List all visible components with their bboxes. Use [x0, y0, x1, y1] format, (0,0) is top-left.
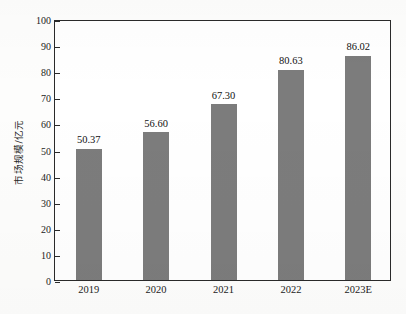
y-tick-mark: [55, 256, 60, 257]
y-tick-mark: [55, 73, 60, 74]
y-tick-mark: [55, 125, 60, 126]
y-tick-mark: [55, 47, 60, 48]
y-tick-label: 100: [36, 16, 51, 26]
x-tick-label: 2021: [213, 285, 234, 296]
bar-value-label: 56.60: [144, 119, 168, 130]
plot-area: 0102030405060708090100 20192020202120222…: [54, 20, 391, 281]
y-tick-label: 60: [41, 120, 51, 130]
bar[interactable]: 80.63: [278, 70, 304, 280]
bar-chart-figure: 市场规模/亿元 0102030405060708090100 201920202…: [0, 0, 406, 314]
bar-value-label: 67.30: [212, 91, 236, 102]
y-axis-title-label: 市场规模/亿元: [11, 119, 25, 184]
bar-value-label: 80.63: [279, 56, 303, 67]
bar-value-label: 50.37: [77, 135, 101, 146]
y-tick-mark: [55, 178, 60, 179]
bar[interactable]: 67.30: [211, 104, 237, 280]
y-tick-label: 0: [46, 277, 51, 287]
y-tick-label: 10: [41, 251, 51, 261]
y-tick-label: 70: [41, 94, 51, 104]
x-tick-label: 2023E: [345, 285, 372, 296]
y-tick-label: 20: [41, 225, 51, 235]
bar-value-label: 86.02: [346, 42, 370, 53]
y-tick-label: 80: [41, 68, 51, 78]
y-tick-label: 50: [41, 147, 51, 157]
y-tick-label: 30: [41, 199, 51, 209]
x-tick-label: 2019: [78, 285, 99, 296]
x-tick-label: 2020: [146, 285, 167, 296]
y-tick-mark: [55, 21, 60, 22]
y-tick-mark: [55, 99, 60, 100]
y-tick-label: 90: [41, 42, 51, 52]
y-tick-mark: [55, 282, 60, 283]
y-tick-label: 40: [41, 173, 51, 183]
y-tick-mark: [55, 204, 60, 205]
y-axis-title: 市场规模/亿元: [9, 104, 27, 200]
y-tick-mark: [55, 230, 60, 231]
bar[interactable]: 86.02: [345, 56, 371, 281]
x-tick-label: 2022: [280, 285, 301, 296]
y-tick-mark: [55, 152, 60, 153]
bar[interactable]: 50.37: [76, 149, 102, 280]
bar[interactable]: 56.60: [143, 132, 169, 280]
